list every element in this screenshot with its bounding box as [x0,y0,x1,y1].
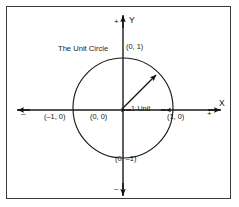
x-axis-label: X [219,99,225,108]
figure-title: The Unit Circle [58,45,108,53]
unit-measure-label: 1-Unit [131,105,150,113]
y-axis-negative-sign: – [114,185,118,193]
unit-circle-diagram [0,0,239,207]
point-label-top: (0, 1) [126,43,143,51]
point-label-left: (–1, 0) [44,113,65,121]
unit-circle-figure: The Unit Circle (0, 1) (–1, 0) (0, 0) (1… [0,0,239,207]
point-label-right: (1, 0) [167,113,184,121]
point-label-origin: (0, 0) [90,113,107,121]
x-axis-negative-sign: – [21,110,25,118]
point-label-bottom: (0, –1) [115,155,136,163]
y-axis-positive-sign: + [114,18,119,26]
x-axis-positive-sign: + [207,110,212,118]
y-axis-label: Y [129,16,135,25]
